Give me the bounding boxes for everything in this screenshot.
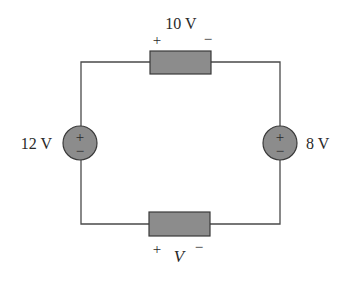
wire-bottom-left xyxy=(81,160,149,224)
top-resistor xyxy=(150,51,211,74)
left-source-minus-sign: − xyxy=(76,143,84,159)
top-resistor-voltage-label: 10 V xyxy=(165,15,197,32)
wire-bottom-right xyxy=(210,160,280,224)
top-resistor-plus-sign: + xyxy=(153,32,161,48)
left-voltage-source: + − xyxy=(63,126,97,160)
bottom-resistor xyxy=(149,212,210,236)
bottom-resistor-plus-sign: + xyxy=(153,241,161,257)
right-source-label: 8 V xyxy=(306,135,330,152)
right-source-minus-sign: − xyxy=(276,143,284,159)
wires xyxy=(81,62,280,224)
wire-top-left xyxy=(81,62,150,126)
wire-top-right xyxy=(211,62,280,126)
circuit-diagram: 10 V + − + V − + − 12 V + − 8 V xyxy=(0,0,361,282)
bottom-resistor-voltage-label: V xyxy=(174,247,187,266)
top-resistor-minus-sign: − xyxy=(204,31,212,47)
right-voltage-source: + − xyxy=(263,126,297,160)
bottom-resistor-minus-sign: − xyxy=(195,239,203,255)
left-source-label: 12 V xyxy=(21,135,53,152)
